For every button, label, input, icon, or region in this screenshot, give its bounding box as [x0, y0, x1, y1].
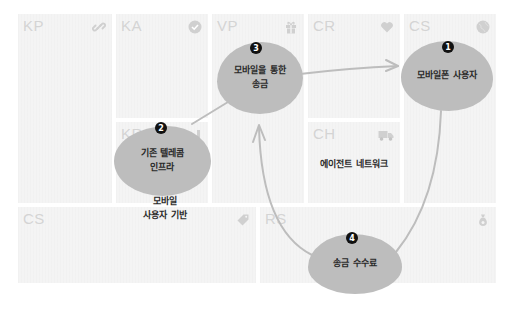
kr-note-line1: 모바일: [125, 194, 205, 208]
ch-note: 에이전트 네트워크: [308, 157, 400, 171]
block-customer-relationships: CR: [308, 14, 400, 118]
heart-icon: [380, 20, 394, 34]
kr-note: 모바일 사용자 기반: [125, 194, 205, 223]
truck-icon: [378, 128, 394, 142]
step-badge-1: 1: [442, 41, 454, 53]
ch-note-text: 에이전트 네트워크: [308, 157, 400, 171]
block-code-vp: VP: [217, 17, 238, 34]
step-badge-3: 3: [250, 42, 262, 54]
globe-icon: [476, 20, 490, 34]
step-4-text: 송금 수수료: [333, 257, 376, 271]
block-key-partners: KP: [18, 14, 112, 203]
step-badge-4: 4: [346, 232, 358, 244]
block-code-cost: CS: [23, 210, 45, 227]
step-3-text-line1: 모바일을 통한: [234, 64, 285, 78]
step-3-text-line2: 송금: [234, 78, 285, 92]
block-code-ka: KA: [121, 17, 142, 34]
link-icon: [92, 20, 106, 34]
gift-icon: [284, 20, 298, 34]
kr-note-line2: 사용자 기반: [125, 208, 205, 222]
block-code-ch: CH: [313, 125, 336, 142]
step-bubble-key-resource: 기존 텔레콤 인프라: [114, 126, 211, 196]
check-circle-icon: [188, 20, 202, 34]
step-2-text-line1: 기존 텔레콤: [141, 147, 184, 161]
tag-icon: [236, 213, 250, 227]
block-code-cs: CS: [409, 17, 431, 34]
block-code-kp: KP: [23, 17, 44, 34]
block-code-rs: RS: [265, 210, 287, 227]
step-2-text-line2: 인프라: [141, 161, 184, 175]
block-code-cr: CR: [313, 17, 336, 34]
step-1-text: 모바일폰 사용자: [417, 69, 476, 83]
step-badge-2: 2: [155, 122, 167, 134]
money-bag-icon: [476, 213, 490, 227]
block-key-activities: KA: [116, 14, 208, 118]
step-bubble-value-proposition: 모바일을 통한 송금: [217, 42, 303, 114]
business-model-canvas: KP KA KR VP CR: [0, 0, 511, 322]
